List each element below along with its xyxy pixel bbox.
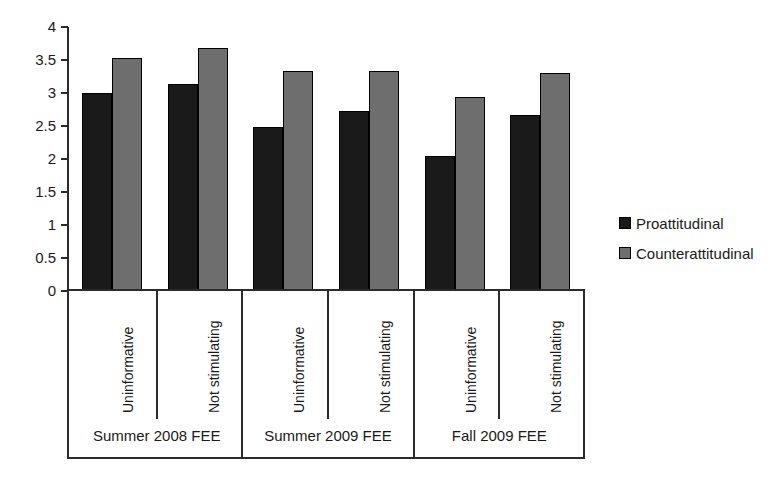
bar — [82, 93, 112, 291]
y-axis-tick-label: 2 — [12, 151, 56, 166]
bar — [168, 84, 198, 291]
y-axis-tick-mark — [61, 59, 68, 61]
category-divider — [327, 291, 329, 419]
bar — [283, 71, 313, 291]
y-axis-tick-label: 3 — [12, 85, 56, 100]
y-axis-tick-mark — [61, 257, 68, 259]
bar — [540, 73, 570, 291]
group-label: Fall 2009 FEE — [414, 428, 585, 443]
y-axis-tick-label: 3.5 — [12, 52, 56, 67]
bar — [198, 48, 228, 291]
legend-entry: Proattitudinal — [619, 208, 782, 238]
legend-entry: Counterattitudinal — [619, 238, 782, 268]
bar — [339, 111, 369, 291]
category-divider — [156, 291, 158, 419]
y-axis-tick-label: 2.5 — [12, 118, 56, 133]
bar — [369, 71, 399, 291]
y-axis-tick-label: 0 — [12, 283, 56, 298]
legend-swatch-icon — [619, 217, 631, 229]
category-divider — [498, 291, 500, 419]
y-axis-tick-mark — [61, 191, 68, 193]
y-axis-tick-mark — [61, 290, 68, 292]
bar — [455, 97, 485, 291]
y-axis-tick-label: 4 — [12, 19, 56, 34]
plot-area — [69, 27, 583, 291]
bar — [425, 156, 455, 291]
bar — [253, 127, 283, 291]
y-axis-tick-mark — [61, 224, 68, 226]
y-axis-tick-label: 0.5 — [12, 250, 56, 265]
bar — [510, 115, 540, 291]
y-axis-tick-label: 1.5 — [12, 184, 56, 199]
group-label: Summer 2008 FEE — [71, 428, 242, 443]
y-axis-tick-mark — [61, 26, 68, 28]
legend-label: Counterattitudinal — [636, 246, 754, 261]
y-axis-tick-mark — [61, 158, 68, 160]
bar — [112, 58, 142, 291]
legend-label: Proattitudinal — [636, 216, 724, 231]
group-label: Summer 2009 FEE — [242, 428, 413, 443]
chart-legend: ProattitudinalCounterattitudinal — [619, 208, 782, 268]
y-axis-tick-label: 1 — [12, 217, 56, 232]
category-axis: UninformativeNot stimulatingSummer 2008 … — [67, 291, 585, 459]
y-axis-tick-mark — [61, 92, 68, 94]
y-axis-tick-labels: 43.532.521.510.50 — [0, 0, 56, 499]
y-axis-tick-mark — [61, 125, 68, 127]
bar-chart: 43.532.521.510.50 UninformativeNot stimu… — [0, 0, 782, 499]
legend-swatch-icon — [619, 247, 631, 259]
